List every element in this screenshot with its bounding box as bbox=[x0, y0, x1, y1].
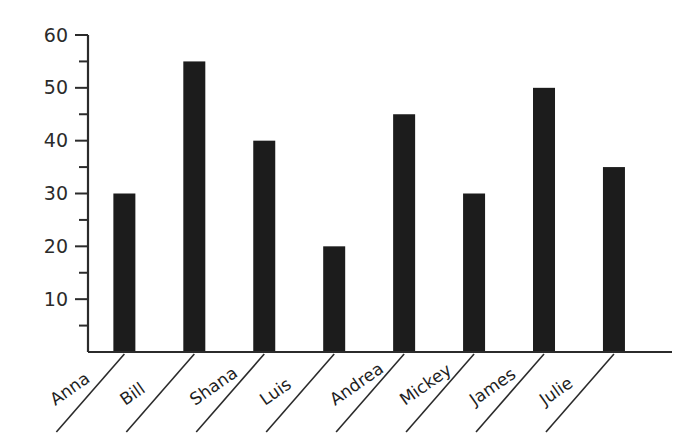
x-category-label-bill: Bill bbox=[116, 378, 149, 409]
y-tick-label: 10 bbox=[44, 288, 68, 310]
x-category-label-james: James bbox=[465, 363, 519, 409]
chart-canvas: 102030405060AnnaBillShanaLuisAndreaMicke… bbox=[0, 0, 695, 446]
x-category-label-anna: Anna bbox=[46, 368, 93, 409]
y-tick-label: 20 bbox=[44, 235, 68, 257]
x-category-label-luis: Luis bbox=[256, 374, 295, 410]
y-tick-label: 60 bbox=[44, 24, 68, 46]
bar-bill bbox=[183, 61, 205, 352]
bar-julie bbox=[603, 167, 625, 352]
bar-james bbox=[533, 88, 555, 352]
bar-andrea bbox=[393, 114, 415, 352]
y-tick-label: 50 bbox=[44, 76, 68, 98]
y-tick-label: 30 bbox=[44, 182, 68, 204]
y-tick-label: 40 bbox=[44, 129, 68, 151]
x-category-label-mickey: Mickey bbox=[396, 359, 455, 409]
bar-mickey bbox=[463, 194, 485, 353]
x-category-label-shana: Shana bbox=[186, 362, 241, 409]
bar-anna bbox=[113, 194, 135, 353]
bar-luis bbox=[323, 246, 345, 352]
bar-chart: 102030405060AnnaBillShanaLuisAndreaMicke… bbox=[0, 0, 695, 446]
bar-shana bbox=[253, 141, 275, 352]
